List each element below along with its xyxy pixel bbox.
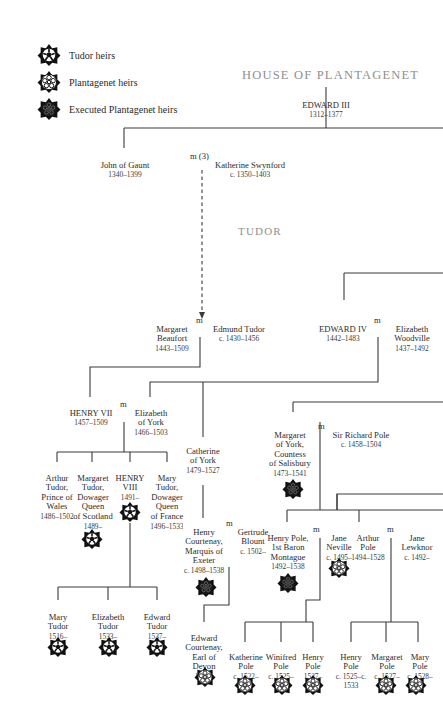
person-name: Winifred Pole [266,652,297,672]
person-richard-pole: Sir Richard Pole c. 1458–1504 [328,421,394,459]
tudor-rose-icon [146,636,168,658]
person-dates: c. 1430–1456 [207,334,271,344]
person-john-of-gaunt: John of Gaunt 1340–1399 [94,151,156,189]
marriage-marker: m [313,524,320,534]
plantagenet-rose-icon [375,674,397,696]
person-name: Katherine Swynford [215,160,285,170]
person-dates: 1494–1528 [348,553,388,563]
executed-rose-icon [282,478,304,500]
executed-rose-icon [277,572,299,594]
plantagenet-rose-icon [37,70,61,94]
tudor-rose-icon [98,636,120,658]
marriage-marker: m [318,421,325,431]
person-name: Catherine of York [186,446,219,466]
marriage-marker: m (3) [190,151,209,161]
marriage-marker: m [196,315,203,325]
person-dates: 1457–1509 [62,418,120,428]
person-edward-iv: EDWARD IV 1442–1483 [314,315,372,353]
marriage-marker: m [226,518,233,528]
person-name: Henry Pole [302,652,323,672]
executed-rose-icon [195,576,217,598]
person-elizabeth-woodville: Elizabeth Woodville 1437–1492 [384,315,440,363]
legend-executed-heirs: Executed Plantagenet heirs [37,97,177,121]
tudor-rose-icon [81,528,103,550]
marriage-marker: m [374,315,381,325]
person-name: Margaret Pole [371,652,402,672]
person-name: Elizabeth Tudor [92,612,124,632]
person-name: Arthur Pole [357,533,380,553]
person-elizabeth-of-york: Elizabeth of York 1466–1503 [130,399,172,447]
marriage-marker: m [120,399,127,409]
person-dates: 1437–1492 [384,344,440,354]
person-name: Elizabeth Woodville [394,324,430,344]
person-edward-iii: EDWARD III 1312–1377 [296,91,356,129]
person-name: Mary Tudor, Dowager Queen of France [151,473,184,521]
person-dates: 1466–1503 [130,428,172,438]
person-name: EDWARD III [302,100,350,110]
plantagenet-rose-icon [405,674,427,696]
legend-plantagenet-heirs: Plantagenet heirs [37,70,138,94]
person-henry-vii: HENRY VII 1457–1509 [62,399,120,437]
person-name: Edmund Tudor [213,324,265,334]
person-name: Jane Lewknor [401,533,432,553]
person-dates: 1442–1483 [314,334,372,344]
legend-label: Executed Plantagenet heirs [69,104,177,115]
person-name: Henry Courtenay, Marquis of Exeter [185,527,223,566]
person-dates: 1492–1538 [263,562,313,572]
tudor-rose-icon [47,636,69,658]
person-dates: c. 1350–1403 [211,170,289,180]
plantagenet-rose-icon [328,557,350,579]
person-katherine-swynford: Katherine Swynford c. 1350–1403 [211,151,289,189]
plantagenet-rose-icon [271,674,293,696]
tudor-rose-icon [119,501,141,523]
person-dates: c. 1492– [395,553,439,563]
person-jane-lewknor: Jane Lewknor c. 1492– [395,524,439,572]
person-name: Margaret Beaufort [156,324,187,344]
person-dates: 1312–1377 [296,110,356,120]
plantagenet-rose-icon [302,674,324,696]
legend-label: Plantagenet heirs [69,77,138,88]
person-name: Mary Tudor [48,612,69,632]
person-name: Edward Tudor [144,612,171,632]
marriage-marker: m [387,524,394,534]
person-name: Elizabeth of York [135,408,167,428]
house-plantagenet-label: HOUSE OF PLANTAGENET [242,68,419,83]
person-name: Sir Richard Pole [333,430,390,440]
person-name: EDWARD IV [319,324,367,334]
person-edmund-tudor: Edmund Tudor c. 1430–1456 [207,315,271,353]
executed-rose-icon [37,97,61,121]
person-name: John of Gaunt [101,160,150,170]
person-dates: 1340–1399 [94,170,156,180]
legend-label: Tudor heirs [69,50,115,61]
plantagenet-rose-icon [194,666,216,688]
plantagenet-rose-icon [234,674,256,696]
tudor-rose-icon [37,43,61,67]
person-name: Katherine Pole [229,652,263,672]
house-tudor-label: TUDOR [238,225,282,237]
person-name: Henry Pole, 1st Baron Montague [267,533,308,562]
person-margaret-beaufort: Margaret Beaufort 1443–1509 [152,315,192,363]
person-name: Mary Pole [411,652,430,672]
person-name: Henry Pole [340,652,361,672]
person-name: HENRY VII [70,408,113,418]
person-dates: c. 1498–1538 [183,566,225,576]
person-name: Arthur Tudor, Prince of Wales [41,473,72,512]
person-arthur-pole: Arthur Pole 1494–1528 [348,524,388,572]
person-name: Margaret Tudor, Dowager Queen of Scotlan… [73,473,112,521]
person-name: Margaret of York, Countess of Salisbury [269,430,311,469]
person-name: HENRY VIII [115,473,144,493]
person-dates: c. 1458–1504 [328,440,394,450]
legend-tudor-heirs: Tudor heirs [37,43,115,67]
person-dates: 1443–1509 [152,344,192,354]
